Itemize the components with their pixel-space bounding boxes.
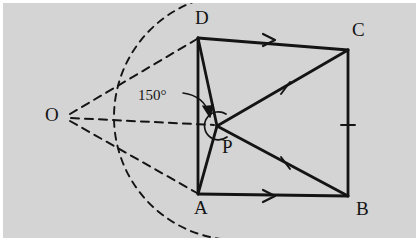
segment-p-a [198,126,217,194]
vertex-label-a: A [194,198,208,217]
vertex-label-b: B [356,199,369,218]
segment-p-b [217,126,348,196]
vertex-label-p: P [222,137,233,156]
vertex-label-d: D [195,8,209,27]
dashed-ray-o-to-p [71,118,214,125]
vertex-label-o: O [45,105,59,124]
dashed-arc-through-d-p-a [114,0,238,240]
vertex-label-c: C [352,20,365,39]
angle-measure-label: 150° [138,88,167,103]
segment-p-c [217,50,348,126]
diagram-canvas: O D C B A P 150° [0,0,419,241]
